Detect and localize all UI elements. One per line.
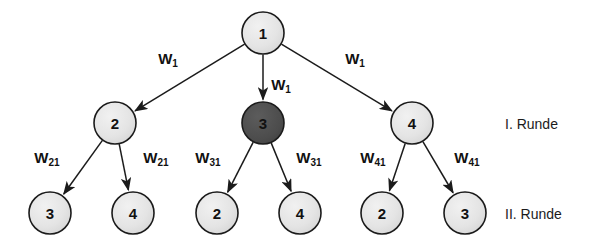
edge-weight-base: W — [360, 149, 375, 166]
tree-node[interactable]: 1 — [242, 12, 284, 54]
edge-weight-base: W — [271, 76, 286, 93]
tree-node[interactable]: 2 — [361, 192, 403, 234]
tree-edge — [64, 140, 103, 194]
node-label: 2 — [213, 205, 221, 222]
node-label: 2 — [111, 115, 119, 132]
node-label: 3 — [259, 115, 267, 132]
tree-node[interactable]: 3 — [29, 192, 71, 234]
tree-node[interactable]: 3 — [444, 192, 486, 234]
nodes-layer: 1234342423 — [29, 12, 486, 234]
edge-weight-label: W41 — [360, 149, 386, 168]
edge-weight-base: W — [143, 149, 158, 166]
round-label: I. Runde — [505, 116, 558, 132]
edge-weight-label: W1 — [271, 76, 291, 95]
edge-weight-base: W — [158, 50, 173, 67]
node-label: 1 — [259, 25, 267, 42]
edge-weight-label: W41 — [454, 149, 480, 168]
edge-weight-base: W — [195, 149, 210, 166]
edge-weight-base: W — [345, 50, 360, 67]
round-labels-layer: I. RundeII. Runde — [505, 116, 562, 222]
tree-node[interactable]: 3 — [242, 102, 284, 144]
node-label: 2 — [378, 205, 386, 222]
edge-weight-base: W — [454, 149, 469, 166]
edge-weight-subscript: 1 — [285, 83, 291, 94]
tree-edge — [389, 143, 405, 190]
edge-weight-base: W — [34, 149, 49, 166]
edge-weight-subscript: 21 — [49, 156, 61, 167]
tree-edge — [228, 142, 254, 192]
tree-diagram-canvas: 1234342423 W1W1W1W21W21W31W31W41W41 I. R… — [0, 0, 603, 252]
node-label: 3 — [46, 205, 54, 222]
tree-node[interactable]: 2 — [94, 102, 136, 144]
edge-weight-label: W21 — [143, 149, 169, 168]
tree-node[interactable]: 4 — [112, 192, 154, 234]
edge-weight-subscript: 1 — [359, 57, 365, 68]
edge-weight-subscript: 31 — [210, 156, 222, 167]
edge-weight-subscript: 1 — [172, 57, 178, 68]
edge-weight-subscript: 41 — [469, 156, 481, 167]
tree-node[interactable]: 4 — [279, 192, 321, 234]
node-label: 4 — [129, 205, 138, 222]
edge-weight-label: W31 — [296, 149, 322, 168]
node-label: 4 — [408, 115, 417, 132]
edge-weight-label: W21 — [34, 149, 60, 168]
edge-weight-base: W — [296, 149, 311, 166]
edge-weight-subscript: 21 — [158, 156, 170, 167]
edge-weight-subscript: 41 — [375, 156, 387, 167]
tree-edge — [119, 144, 128, 190]
edge-weight-label: W31 — [195, 149, 221, 168]
edge-weight-subscript: 31 — [311, 156, 323, 167]
tree-diagram: 1234342423 W1W1W1W21W21W31W31W41W41 I. R… — [0, 0, 603, 252]
tree-node[interactable]: 2 — [196, 192, 238, 234]
tree-edge — [135, 44, 245, 111]
tree-node[interactable]: 4 — [391, 102, 433, 144]
edge-weight-label: W1 — [158, 50, 178, 69]
round-label: II. Runde — [505, 206, 562, 222]
tree-edge — [423, 142, 453, 193]
node-label: 3 — [461, 205, 469, 222]
tree-edge — [271, 143, 291, 191]
node-label: 4 — [296, 205, 305, 222]
tree-edge — [281, 44, 391, 111]
edge-weight-label: W1 — [345, 50, 365, 69]
